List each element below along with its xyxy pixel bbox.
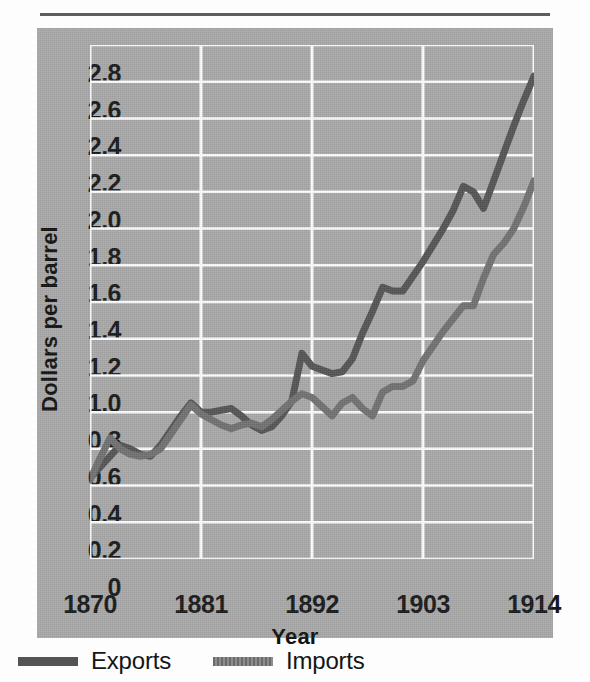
legend-swatch-exports-icon (18, 657, 78, 666)
x-tick-label: 1892 (285, 592, 339, 617)
legend-label-imports: Imports (286, 649, 365, 673)
chart-legend: Exports Imports (0, 644, 590, 678)
chart-panel: Dollars per barrel 00.20.40.60.81.01.21.… (37, 28, 553, 638)
plot-area (90, 45, 534, 559)
header-rule (40, 13, 550, 16)
line-chart-svg (90, 45, 534, 559)
x-tick-label: 1881 (174, 592, 228, 617)
legend-item-exports: Exports (18, 649, 171, 673)
chart-figure: Dollars per barrel 00.20.40.60.81.01.21.… (0, 0, 590, 682)
x-tick-label: 1870 (63, 592, 117, 617)
legend-swatch-imports-icon (213, 657, 273, 666)
x-axis-tick-labels: 18701881189219031914 (37, 28, 553, 68)
legend-item-imports: Imports (213, 649, 365, 673)
x-tick-label: 1903 (396, 592, 450, 617)
x-tick-label: 1914 (507, 592, 561, 617)
legend-label-exports: Exports (91, 649, 171, 673)
